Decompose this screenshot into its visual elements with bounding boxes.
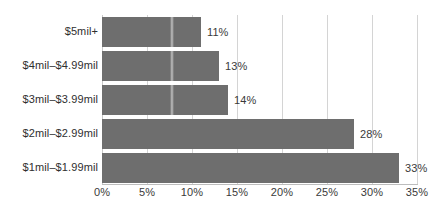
x-tick-label: 15% [226, 186, 248, 198]
bar [102, 17, 201, 47]
scan-artifact [170, 17, 174, 47]
x-tick-label: 20% [271, 186, 293, 198]
category-label: $5mil+ [2, 25, 98, 37]
bar-row: 33% [102, 153, 417, 183]
bar-row: 13% [102, 51, 417, 81]
bar-row: 14% [102, 85, 417, 115]
bar-row: 11% [102, 17, 417, 47]
category-label: $4mil–$4.99mil [2, 59, 98, 71]
bar [102, 85, 228, 115]
x-tick-label: 30% [361, 186, 383, 198]
x-tick-label: 5% [139, 186, 155, 198]
category-label: $2mil–$2.99mil [2, 127, 98, 139]
x-axis-line [102, 184, 418, 185]
bar [102, 51, 219, 81]
gridline-35% [417, 15, 418, 185]
x-tick-label: 10% [181, 186, 203, 198]
bar-value-label: 33% [405, 162, 427, 174]
bar [102, 153, 399, 183]
bar-value-label: 28% [360, 128, 382, 140]
x-tick-label: 0% [94, 186, 110, 198]
category-label: $3mil–$3.99mil [2, 93, 98, 105]
plot-area: 11%13%14%28%33% [102, 15, 417, 185]
bar-value-label: 13% [225, 60, 247, 72]
bar-value-label: 14% [234, 94, 256, 106]
category-axis: $5mil+$4mil–$4.99mil$3mil–$3.99mil$2mil–… [0, 15, 98, 185]
scan-artifact [170, 85, 174, 115]
bar [102, 119, 354, 149]
x-axis-tick-labels: 0%5%10%15%20%25%30%35% [0, 186, 445, 206]
x-tick-label: 25% [316, 186, 338, 198]
bar-value-label: 11% [207, 26, 229, 38]
bar-chart: $5mil+$4mil–$4.99mil$3mil–$3.99mil$2mil–… [0, 0, 445, 206]
category-label: $1mil–$1.99mil [2, 161, 98, 173]
x-tick-label: 35% [406, 186, 428, 198]
bar-row: 28% [102, 119, 417, 149]
scan-artifact [170, 51, 174, 81]
